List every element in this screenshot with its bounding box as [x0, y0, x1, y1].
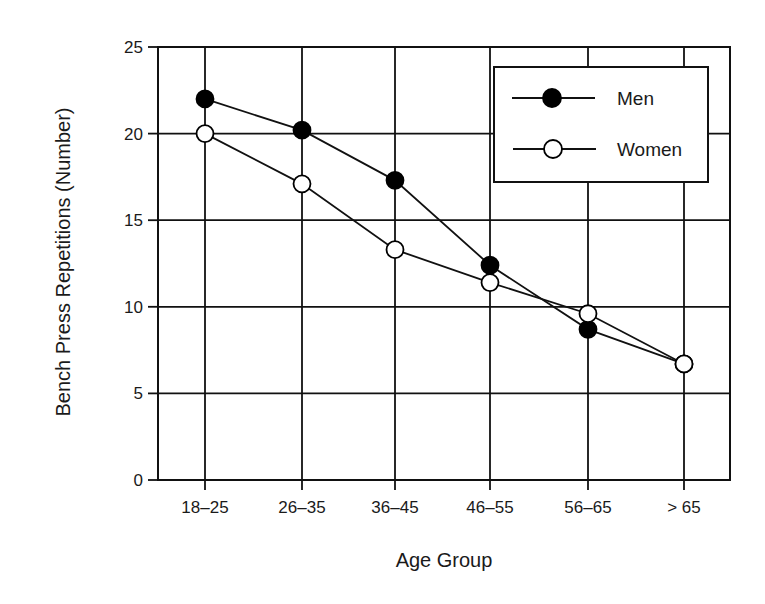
open-circle-marker-icon — [482, 274, 499, 291]
open-circle-marker-icon — [197, 125, 214, 142]
y-tick-label: 20 — [124, 125, 143, 144]
open-circle-marker-icon — [580, 305, 597, 322]
y-tick-label: 15 — [124, 211, 143, 230]
x-tick-label: 26–35 — [278, 498, 325, 517]
filled-circle-marker-icon — [387, 172, 404, 189]
x-tick-label: 18–25 — [181, 498, 228, 517]
y-axis: 0510152025 — [124, 38, 158, 490]
legend: Men Women — [494, 67, 708, 182]
y-tick-label: 0 — [134, 471, 143, 490]
x-tick-label: 46–55 — [466, 498, 513, 517]
line-chart: 0510152025 18–2526–3536–4546–5556–65> 65… — [0, 0, 765, 604]
filled-circle-marker-icon — [580, 321, 597, 338]
open-circle-marker-icon — [387, 241, 404, 258]
legend-box — [494, 67, 708, 182]
x-axis-title: Age Group — [396, 549, 493, 571]
x-tick-label: 56–65 — [564, 498, 611, 517]
y-tick-label: 10 — [124, 298, 143, 317]
open-circle-marker-icon — [676, 355, 693, 372]
x-tick-label: > 65 — [667, 498, 701, 517]
x-axis: 18–2526–3536–4546–5556–65> 65 — [181, 480, 700, 517]
legend-women-label: Women — [617, 139, 682, 160]
legend-men-label: Men — [617, 88, 654, 109]
open-circle-marker-icon — [294, 175, 311, 192]
filled-circle-marker-icon — [482, 257, 499, 274]
legend-women-marker-icon — [544, 140, 562, 158]
y-axis-title: Bench Press Repetitions (Number) — [52, 107, 74, 416]
x-tick-label: 36–45 — [371, 498, 418, 517]
y-tick-label: 5 — [134, 384, 143, 403]
legend-men-marker-icon — [543, 89, 561, 107]
filled-circle-marker-icon — [294, 122, 311, 139]
filled-circle-marker-icon — [197, 90, 214, 107]
y-tick-label: 25 — [124, 38, 143, 57]
